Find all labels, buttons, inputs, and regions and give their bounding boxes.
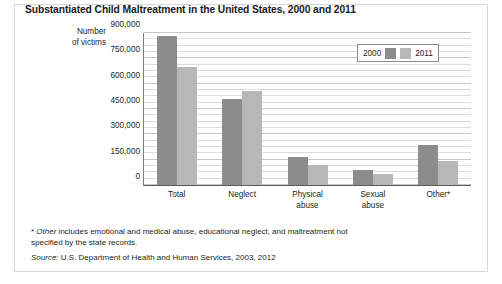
footnote-term: Other	[36, 227, 56, 236]
y-axis-tick-label: 600,000	[110, 70, 140, 79]
footnote-text: includes emotional and medical abuse, ed…	[31, 227, 348, 247]
y-axis-tick-label: 450,000	[110, 96, 140, 105]
legend-label-2011: 2011	[415, 49, 433, 58]
legend-swatch-2000-icon	[385, 48, 396, 59]
bar-2011	[308, 165, 328, 185]
source-text: U.S. Department of Health and Human Serv…	[59, 253, 276, 262]
chart-legend: 2000 2011	[357, 44, 439, 62]
y-axis-tick-label: 900,000	[110, 20, 140, 29]
x-axis-tick-label: Physical abuse	[292, 190, 323, 211]
y-axis-tick-label: 0	[135, 172, 140, 181]
bar-2000	[157, 36, 177, 185]
bar-2011	[373, 174, 393, 185]
source-label: Source:	[31, 253, 59, 262]
y-axis-tick-label: 300,000	[110, 121, 140, 130]
legend-label-2000: 2000	[363, 49, 381, 58]
bar-2011	[177, 67, 197, 185]
bar-2000	[418, 145, 438, 185]
y-axis-title-line1: Number	[38, 27, 106, 38]
page-title: Substantiated Child Maltreatment in the …	[25, 4, 485, 15]
footnote: * Other includes emotional and medical a…	[31, 226, 361, 248]
x-axis-tick-label: Total	[168, 190, 185, 201]
bar-group: Physical abuse	[275, 33, 340, 185]
y-axis-title-line2: of victims	[38, 38, 106, 49]
legend-swatch-2011-icon	[400, 48, 411, 59]
source-note: Source: U.S. Department of Health and Hu…	[31, 252, 431, 263]
y-axis-tick-label: 150,000	[110, 146, 140, 155]
y-axis-title: Number of victims	[38, 27, 106, 48]
bar-2000	[288, 157, 308, 185]
x-axis-tick-label: Neglect	[228, 190, 256, 201]
bar-2011	[242, 91, 262, 185]
bar-2000	[353, 170, 373, 185]
bar-group: Total	[144, 33, 209, 185]
chart-figure: Substantiated Child Maltreatment in the …	[0, 0, 502, 284]
y-axis-tick-label: 750,000	[110, 45, 140, 54]
bar-group: Neglect	[209, 33, 274, 185]
x-axis-tick-label: Other*	[426, 190, 450, 201]
bar-2011	[438, 161, 458, 185]
x-axis-tick-label: Sexual abuse	[360, 190, 385, 211]
bar-2000	[222, 99, 242, 185]
